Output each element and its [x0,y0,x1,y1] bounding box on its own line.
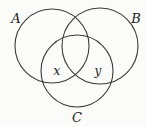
venn-diagram: A B C x y [0,0,147,127]
set-c-circle [41,35,113,107]
region-x-label: x [54,64,61,78]
set-a-circle [15,9,89,83]
region-y-label: y [94,64,102,78]
set-b-label: B [130,11,141,26]
set-c-label: C [72,110,82,125]
set-a-label: A [10,11,20,26]
